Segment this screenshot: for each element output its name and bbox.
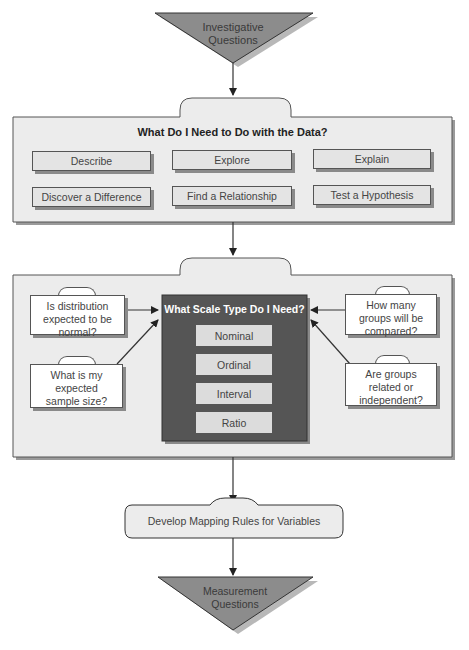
- option-describe[interactable]: Describe: [32, 151, 151, 171]
- question-sample-size: What is my expected sample size?: [30, 364, 123, 408]
- scale-box-title: What Scale Type Do I Need?: [162, 303, 307, 315]
- question-distribution-normal: Is distribution expected to be normal?: [30, 295, 125, 335]
- start-label-line2: Questions: [183, 34, 283, 47]
- question-line: sample size?: [31, 395, 122, 408]
- option-find-relationship[interactable]: Find a Relationship: [172, 186, 292, 206]
- mapping-label: Develop Mapping Rules for Variables: [125, 515, 343, 528]
- question-line: What is my: [31, 369, 122, 382]
- start-label-line1: Investigative: [183, 21, 283, 34]
- option-test-hypothesis[interactable]: Test a Hypothesis: [313, 185, 431, 205]
- end-label-line2: Questions: [185, 598, 285, 611]
- question-line: expected: [31, 382, 122, 395]
- question-line: How many: [346, 299, 436, 312]
- scale-ordinal[interactable]: Ordinal: [196, 354, 272, 375]
- question-line: groups will be: [346, 312, 436, 325]
- question-line: normal?: [31, 326, 124, 339]
- start-label: Investigative Questions: [183, 21, 283, 47]
- end-label-line1: Measurement: [185, 585, 285, 598]
- scale-nominal[interactable]: Nominal: [196, 325, 272, 346]
- question-line: independent?: [346, 394, 436, 407]
- question-line: compared?: [346, 325, 436, 338]
- question-groups-related: Are groups related or independent?: [345, 363, 437, 406]
- panel1-title: What Do I Need to Do with the Data?: [13, 126, 452, 138]
- question-line: expected to be: [31, 313, 124, 326]
- scale-interval[interactable]: Interval: [196, 383, 272, 404]
- end-label: Measurement Questions: [185, 585, 285, 611]
- option-explain[interactable]: Explain: [313, 149, 431, 169]
- question-line: related or: [346, 381, 436, 394]
- option-discover-difference[interactable]: Discover a Difference: [32, 187, 151, 207]
- option-explore[interactable]: Explore: [172, 150, 292, 170]
- scale-ratio[interactable]: Ratio: [196, 412, 272, 433]
- question-groups-compared: How many groups will be compared?: [345, 294, 437, 335]
- question-line: Is distribution: [31, 300, 124, 313]
- question-line: Are groups: [346, 368, 436, 381]
